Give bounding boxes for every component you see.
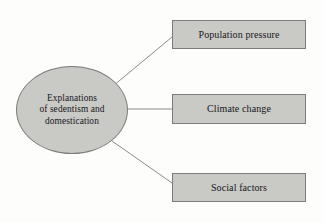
box-node-social-factors[interactable]: Social factors [172, 173, 306, 202]
box-node-label: Population pressure [198, 29, 279, 41]
connector-root-to-population-pressure [113, 37, 172, 86]
root-node-explanations[interactable]: Explanations of sedentism and domesticat… [16, 66, 128, 154]
box-node-label: Climate change [207, 103, 271, 115]
box-node-climate-change[interactable]: Climate change [172, 94, 306, 124]
root-node-label: Explanations of sedentism and domesticat… [33, 93, 110, 126]
diagram-canvas: Explanations of sedentism and domesticat… [0, 0, 324, 222]
box-node-population-pressure[interactable]: Population pressure [172, 20, 306, 49]
connector-root-to-social-factors [112, 141, 172, 183]
box-node-label: Social factors [211, 182, 267, 194]
